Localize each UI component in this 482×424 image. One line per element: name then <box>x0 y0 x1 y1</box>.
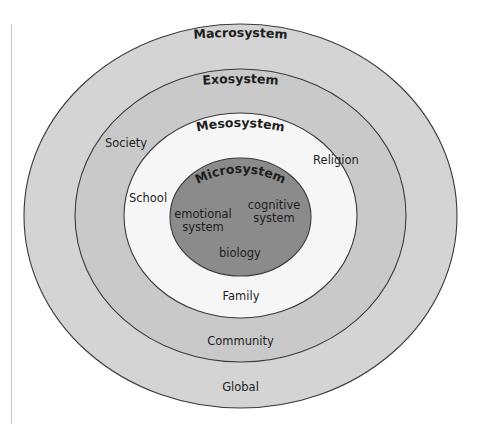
exosystem-label: Exosystem <box>202 71 280 88</box>
emotional-system-label-line1: emotional <box>174 207 232 221</box>
cognitive-system-label-line1: cognitive <box>248 198 301 212</box>
biology-label: biology <box>219 246 261 260</box>
emotional-system-label-line2: system <box>182 220 224 234</box>
religion-label: Religion <box>313 153 359 167</box>
ecological-systems-diagram: Macrosystem Exosystem Mesosystem Microsy… <box>0 0 482 424</box>
global-label: Global <box>222 380 259 394</box>
cognitive-system-label-line2: system <box>253 211 295 225</box>
macrosystem-label: Macrosystem <box>193 25 288 42</box>
school-label: School <box>129 191 167 205</box>
society-label: Society <box>105 136 147 150</box>
community-label: Community <box>207 334 274 348</box>
family-label: Family <box>222 289 259 303</box>
